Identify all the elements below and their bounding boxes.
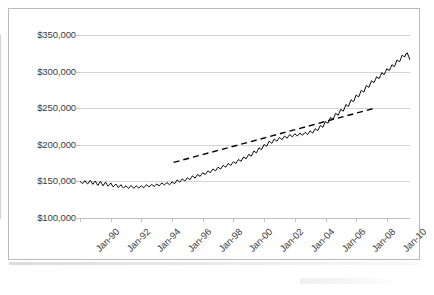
x-axis-tick — [387, 218, 388, 222]
y-axis-line — [0, 35, 1, 219]
y-axis-tick-label: $250,000 — [8, 102, 76, 113]
x-axis-tick — [141, 218, 142, 222]
y-axis-tick-label: $300,000 — [8, 66, 76, 77]
x-axis-tick — [264, 218, 265, 222]
scan-artifact-line — [9, 262, 419, 265]
x-axis-tick — [111, 218, 112, 222]
y-axis-tick-label: $150,000 — [8, 175, 76, 186]
y-axis-tick-label: $100,000 — [8, 212, 76, 223]
plot-area — [80, 35, 410, 218]
data-series-layer — [80, 35, 410, 218]
x-axis-tick — [326, 218, 327, 222]
y-axis-tick-label: $200,000 — [8, 139, 76, 150]
series-line-trendline — [174, 108, 375, 162]
x-axis-tick — [172, 218, 173, 222]
x-axis-tick — [80, 218, 81, 222]
x-axis-tick — [356, 218, 357, 222]
x-axis-tick — [233, 218, 234, 222]
y-axis-tick-label: $350,000 — [8, 29, 76, 40]
x-axis-line — [80, 218, 410, 219]
chart-screenshot: $350,000$300,000$250,000$200,000$150,000… — [0, 0, 434, 295]
scan-artifact-smudge — [300, 278, 390, 284]
x-axis-tick — [295, 218, 296, 222]
x-axis-tick — [203, 218, 204, 222]
series-line-median-home-price — [80, 53, 410, 188]
